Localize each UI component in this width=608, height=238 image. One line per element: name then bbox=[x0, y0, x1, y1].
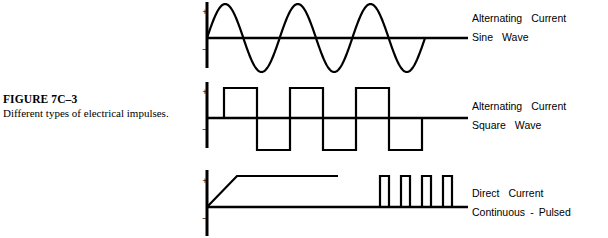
sine-wave-graphic bbox=[196, 0, 476, 76]
label-sine-line1-word1: Alternating bbox=[472, 12, 522, 24]
polarity-negative-pulsed: – bbox=[200, 214, 210, 223]
pulse-2 bbox=[401, 176, 410, 207]
label-square-line2-word2: Wave bbox=[515, 119, 541, 131]
label-pulsed-line2: Continuous-Pulsed bbox=[472, 203, 608, 222]
label-pulsed-line1-word2: Current bbox=[508, 187, 543, 199]
pulsed-dc-graphic bbox=[196, 162, 476, 238]
label-square-line2: SquareWave bbox=[472, 116, 608, 135]
label-block-sine: AlternatingCurrent SineWave bbox=[472, 9, 608, 47]
figure-caption-block: FIGURE 7C–3 Different types of electrica… bbox=[3, 93, 193, 120]
label-sine-line1: AlternatingCurrent bbox=[472, 9, 608, 28]
label-block-pulsed: DirectCurrent Continuous-Pulsed bbox=[472, 184, 608, 222]
label-pulsed-line1: DirectCurrent bbox=[472, 184, 608, 203]
figure-caption-text: Different types of electrical impulses. bbox=[3, 107, 193, 120]
label-block-square: AlternatingCurrent SquareWave bbox=[472, 97, 608, 135]
label-sine-line2-word2: Wave bbox=[502, 31, 528, 43]
waveform-panel-pulsed: + – bbox=[196, 162, 476, 238]
pulse-4 bbox=[443, 176, 452, 207]
label-square-line1-word1: Alternating bbox=[472, 100, 522, 112]
label-square-line1: AlternatingCurrent bbox=[472, 97, 608, 116]
waveform-panel-sine: + – bbox=[196, 0, 476, 76]
polarity-negative-square: – bbox=[200, 125, 210, 134]
polarity-negative-sine: – bbox=[200, 45, 210, 54]
label-pulsed-line2-dash: - bbox=[530, 206, 534, 218]
label-square-line2-word1: Square bbox=[472, 119, 506, 131]
polarity-positive-sine: + bbox=[200, 8, 210, 17]
pulse-3 bbox=[422, 176, 431, 207]
label-square-line1-word2: Current bbox=[531, 100, 566, 112]
label-sine-line2: SineWave bbox=[472, 28, 608, 47]
figure-electrical-impulses: FIGURE 7C–3 Different types of electrica… bbox=[0, 0, 608, 238]
continuous-ramp-trace bbox=[207, 176, 338, 207]
label-pulsed-line2-word1: Continuous bbox=[472, 206, 525, 218]
figure-number: FIGURE 7C–3 bbox=[3, 93, 193, 106]
label-pulsed-line1-word1: Direct bbox=[472, 187, 499, 199]
polarity-positive-square: + bbox=[200, 88, 210, 97]
waveform-panel-square: + – bbox=[196, 80, 476, 156]
label-pulsed-line2-word2: Pulsed bbox=[539, 206, 571, 218]
label-sine-line1-word2: Current bbox=[531, 12, 566, 24]
pulse-1 bbox=[380, 176, 389, 207]
square-wave-graphic bbox=[196, 80, 476, 156]
polarity-positive-pulsed: + bbox=[200, 177, 210, 186]
label-sine-line2-word1: Sine bbox=[472, 31, 493, 43]
